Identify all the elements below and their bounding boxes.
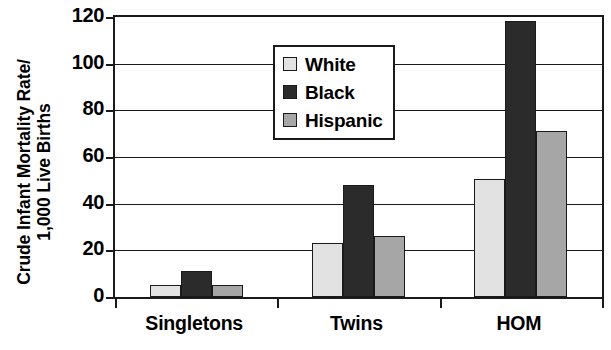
bar-chart: Crude Infant Mortality Rate/ 1,000 Live …: [0, 0, 611, 350]
y-axis-tick-mark: [106, 297, 115, 299]
legend-item-hispanic: Hispanic: [283, 109, 383, 131]
y-axis-tick-label: 40: [58, 192, 104, 212]
legend-swatch-hispanic: [283, 113, 297, 127]
legend-label-hispanic: Hispanic: [305, 111, 383, 130]
bar-singletons-black: [181, 271, 212, 297]
y-axis-title: Crude Infant Mortality Rate/ 1,000 Live …: [8, 22, 60, 322]
plot-area: WhiteBlackHispanic: [113, 15, 604, 299]
x-axis-tick-label-singletons: Singletons: [145, 312, 243, 335]
y-axis-tick-mark: [106, 64, 115, 66]
legend-label-white: White: [305, 55, 356, 74]
legend: WhiteBlackHispanic: [273, 45, 395, 140]
bar-twins-white: [312, 243, 343, 297]
bar-hom-white: [474, 179, 505, 297]
x-axis-tick-label-twins: Twins: [330, 312, 383, 335]
legend-swatch-white: [283, 57, 297, 71]
legend-item-black: Black: [283, 81, 383, 103]
x-axis-tick-labels: SingletonsTwinsHOM: [113, 312, 600, 342]
bar-hom-black: [505, 21, 536, 298]
y-axis-tick-label: 120: [58, 5, 104, 25]
bar-singletons-white: [150, 285, 181, 297]
y-axis-tick-mark: [106, 250, 115, 252]
y-axis-title-line-1: Crude Infant Mortality Rate/: [14, 59, 34, 285]
x-axis-tick-label-hom: HOM: [496, 312, 541, 335]
x-axis-tick-mark: [602, 297, 604, 308]
bar-hom-hispanic: [536, 131, 567, 297]
legend-item-white: White: [283, 53, 383, 75]
x-axis-tick-mark: [440, 297, 442, 308]
y-axis-title-line-2: 1,000 Live Births: [34, 103, 54, 240]
y-axis-tick-label: 60: [58, 145, 104, 165]
bar-singletons-hispanic: [212, 285, 243, 297]
legend-swatch-black: [283, 85, 297, 99]
y-axis-tick-label: 0: [58, 285, 104, 305]
y-axis-tick-mark: [106, 204, 115, 206]
x-axis-tick-mark: [277, 297, 279, 308]
x-axis-tick-mark: [115, 297, 117, 308]
y-axis-tick-mark: [106, 17, 115, 19]
y-axis-tick-mark: [106, 110, 115, 112]
legend-label-black: Black: [305, 83, 355, 102]
bar-twins-hispanic: [374, 236, 405, 297]
y-axis-tick-labels: 020406080100120: [54, 0, 104, 350]
y-axis-tick-label: 80: [58, 98, 104, 118]
y-axis-tick-label: 20: [58, 238, 104, 258]
y-axis-tick-mark: [106, 157, 115, 159]
y-axis-tick-label: 100: [58, 52, 104, 72]
bar-twins-black: [343, 185, 374, 297]
